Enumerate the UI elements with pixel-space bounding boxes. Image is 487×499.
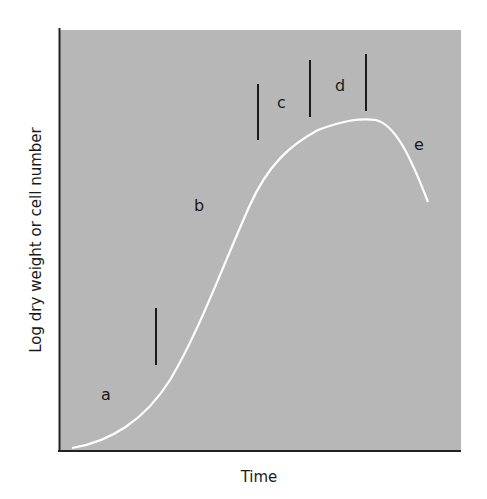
phase-label-e: e <box>414 135 424 154</box>
growth-curve-diagram: a b c d e Time Log dry weight or cell nu… <box>0 0 487 499</box>
phase-label-d: d <box>335 76 345 95</box>
x-axis-label: Time <box>240 468 278 486</box>
phase-label-c: c <box>277 93 286 112</box>
y-axis-label: Log dry weight or cell number <box>27 126 45 352</box>
plot-area <box>59 30 461 451</box>
phase-label-a: a <box>101 385 111 404</box>
phase-label-b: b <box>194 196 204 215</box>
